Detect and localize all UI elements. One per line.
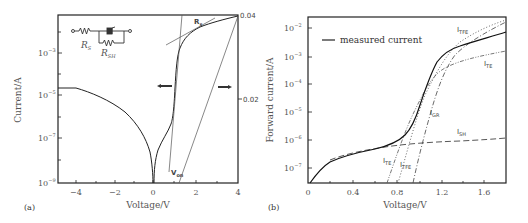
x-tick-label: −2 (109, 188, 121, 197)
y-tick-label: 10−5 (284, 106, 302, 117)
arrow-right-icon (218, 85, 232, 89)
label-i-tfe-low: ITFE (400, 161, 411, 170)
x-axis-label: Voltage/V (125, 200, 170, 210)
resistor-rsh-icon (103, 40, 114, 46)
terminal-icon (129, 30, 132, 33)
plot-a-x-ticks (76, 99, 242, 183)
label-i-sh: ISH (457, 128, 466, 137)
x-axis-label: Voltage/V (382, 200, 427, 210)
panel-label: (b) (268, 203, 279, 212)
x-tick-label: 0 (150, 188, 155, 197)
y-tick-label: 10−6 (284, 134, 302, 145)
y-tick-label: 10−4 (284, 78, 302, 89)
y-tick-label: 10−2 (284, 22, 302, 33)
y-tick-label: 10−9 (38, 177, 56, 188)
right-tick-label: 0.02 (243, 96, 259, 104)
y-axis-label: Current/A (13, 77, 23, 123)
von-annotation: Von (171, 169, 184, 178)
arrow-left-icon (157, 84, 172, 88)
curve-i-sh (330, 138, 506, 160)
legend: measured current (322, 35, 422, 45)
figure: 10−3 10−5 10−7 10−9 0.04 0.02 −4 −2 0 2 … (0, 0, 528, 223)
panel-label: (a) (24, 203, 35, 212)
panel-b: 10−2 10−3 10−4 10−5 10−6 10−7 0 0.4 0.8 … (265, 17, 506, 212)
x-tick-label: 4 (235, 188, 240, 197)
rs-tangent-line (166, 18, 215, 45)
label-i-te-low: ITE (383, 157, 391, 166)
label-i-tfe: ITFE (457, 26, 468, 35)
x-tick-label: 2 (193, 188, 198, 197)
right-tick-label: 0.04 (240, 12, 256, 20)
y-tick-label: 10−3 (38, 47, 56, 58)
terminal-icon (72, 30, 75, 33)
y-tick-label: 10−5 (38, 89, 56, 100)
x-tick-label: 1.6 (478, 188, 491, 197)
y-tick-label: 10−7 (284, 162, 302, 173)
panel-a: 10−3 10−5 10−7 10−9 0.04 0.02 −4 −2 0 2 … (13, 12, 259, 212)
y-tick-label: 10−7 (38, 132, 56, 143)
x-tick-label: 0.8 (391, 188, 404, 197)
x-tick-label: 1.2 (436, 188, 449, 197)
curve-measured-current (310, 32, 506, 183)
x-tick-label: 0 (305, 188, 310, 197)
inset-rs-label: RS (80, 40, 92, 51)
inset-rsh-label: RSH (100, 48, 116, 59)
label-i-gr: IGR (430, 109, 440, 118)
diode-icon (107, 28, 112, 34)
y-axis-label: Forward current/A (265, 57, 275, 143)
plot-b-y-ticks (308, 28, 312, 168)
resistor-rs-icon (79, 28, 90, 34)
x-tick-label: 0.4 (347, 188, 360, 197)
curve-iv-linear (179, 16, 238, 183)
rs-annotation: Rs (194, 18, 202, 27)
y-tick-label: 10−3 (284, 51, 302, 62)
label-i-te: ITE (484, 60, 492, 69)
tangent-line (169, 15, 182, 172)
legend-label: measured current (340, 35, 422, 45)
x-tick-label: −4 (70, 188, 82, 197)
